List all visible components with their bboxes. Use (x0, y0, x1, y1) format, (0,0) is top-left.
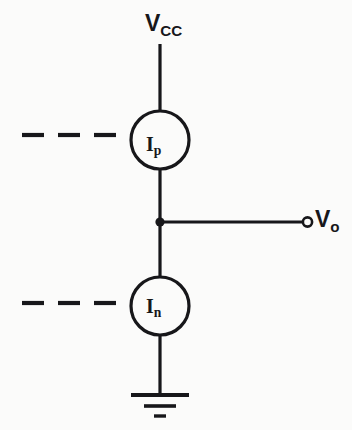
current-source-n-subscript: n (154, 305, 162, 320)
schematic-canvas: VCC Vo Ip In (0, 0, 352, 430)
supply-voltage-symbol: V (145, 10, 160, 36)
current-source-p-symbol-text: I (146, 133, 154, 155)
current-source-n-symbol-text: I (146, 295, 154, 317)
current-source-p-subscript: p (154, 143, 162, 158)
current-source-n-label: In (146, 296, 161, 316)
current-source-p-label: Ip (146, 134, 161, 154)
output-voltage-label: Vo (315, 208, 339, 231)
supply-voltage-label: VCC (145, 12, 182, 35)
output-voltage-subscript: o (330, 218, 339, 235)
supply-voltage-subscript: CC (160, 22, 182, 39)
output-voltage-symbol: V (315, 206, 330, 232)
output-terminal-node (303, 217, 312, 226)
circuit-schematic (0, 0, 352, 430)
